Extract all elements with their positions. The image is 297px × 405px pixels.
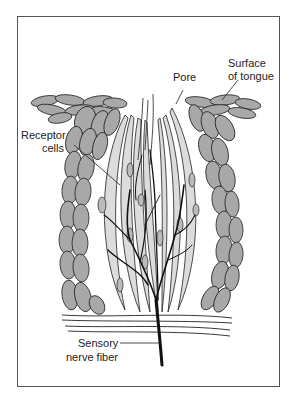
surface-label-line1: Surface [228, 57, 266, 70]
nerve-label-line2: nerve fiber [66, 351, 118, 364]
receptor-label-line2: cells [42, 142, 64, 155]
receptor-label-line1: Receptor [21, 129, 66, 142]
pore-label: Pore [173, 71, 196, 84]
connective-tissue [62, 315, 232, 336]
surface-label-line2: of tongue [228, 70, 274, 83]
nerve-label-line1: Sensory [78, 337, 118, 350]
